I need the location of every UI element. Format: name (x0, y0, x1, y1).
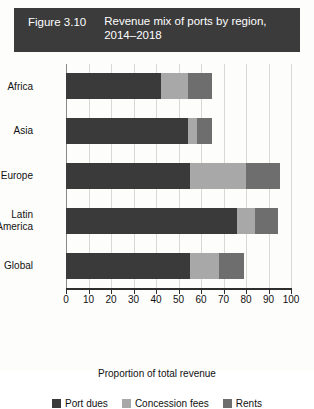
bar-segment-concession-fees (190, 253, 219, 279)
category-label-line: Latin (0, 209, 33, 221)
x-tick-label-90: 90 (263, 294, 274, 305)
stacked-bar (66, 118, 212, 144)
category-label-global: Global (0, 260, 33, 272)
x-tick-label-80: 80 (240, 294, 251, 305)
category-label-line: Europe (0, 170, 33, 182)
bar-row: Africa (66, 64, 291, 109)
legend-item-rents: Rents (223, 398, 262, 409)
bar-segment-port-dues (66, 253, 190, 279)
x-tick-label-60: 60 (195, 294, 206, 305)
bar-row: LatinAmerica (66, 198, 291, 243)
bar-segment-port-dues (66, 73, 161, 99)
category-label-africa: Africa (0, 81, 33, 93)
bar-segment-port-dues (66, 118, 188, 144)
bar-segment-rents (219, 253, 244, 279)
category-label-line: Global (0, 260, 33, 272)
bar-segment-rents (188, 73, 213, 99)
bar-segment-rents (255, 208, 278, 234)
bar-segment-rents (197, 118, 213, 144)
x-tick-label-50: 50 (173, 294, 184, 305)
category-label-line: America (0, 221, 33, 233)
stacked-bar (66, 73, 212, 99)
legend-swatch-icon (52, 399, 61, 408)
stacked-bar (66, 208, 278, 234)
figure-title-banner: Figure 3.10 Revenue mix of ports by regi… (14, 8, 300, 52)
category-label-asia: Asia (0, 125, 33, 137)
stacked-bar (66, 253, 244, 279)
bar-row: Europe (66, 154, 291, 199)
bar-segment-concession-fees (237, 208, 255, 234)
x-axis-title: Proportion of total revenue (0, 368, 314, 379)
x-tick-label-10: 10 (83, 294, 94, 305)
legend-label: Rents (236, 398, 262, 409)
bar-segment-port-dues (66, 208, 237, 234)
chart-legend: Port duesConcession feesRents (0, 398, 314, 409)
legend-item-port-dues: Port dues (52, 398, 108, 409)
figure-title: Revenue mix of ports by region, 2014–201… (104, 14, 292, 42)
legend-item-concession-fees: Concession fees (122, 398, 209, 409)
x-tick-label-100: 100 (283, 294, 300, 305)
chart-plot-area: AfricaAsiaEuropeLatinAmericaGlobal 01020… (0, 58, 314, 298)
bar-segment-rents (246, 163, 280, 189)
gridline-100 (291, 64, 292, 288)
legend-swatch-icon (223, 399, 232, 408)
x-tick-label-40: 40 (150, 294, 161, 305)
bar-row: Global (66, 243, 291, 288)
category-label-line: Asia (0, 125, 33, 137)
category-label-latin-america: LatinAmerica (0, 209, 33, 232)
bars-container: AfricaAsiaEuropeLatinAmericaGlobal (66, 64, 291, 288)
category-label-line: Africa (0, 81, 33, 93)
bar-segment-concession-fees (188, 118, 197, 144)
figure-number: Figure 3.10 (28, 14, 86, 29)
legend-label: Port dues (65, 398, 108, 409)
x-tick-label-0: 0 (63, 294, 69, 305)
bar-segment-concession-fees (161, 73, 188, 99)
legend-label: Concession fees (135, 398, 209, 409)
bar-segment-concession-fees (190, 163, 246, 189)
stacked-bar (66, 163, 280, 189)
bar-row: Asia (66, 109, 291, 154)
x-tick-label-30: 30 (128, 294, 139, 305)
x-tick-label-70: 70 (218, 294, 229, 305)
legend-swatch-icon (122, 399, 131, 408)
x-tick-label-20: 20 (105, 294, 116, 305)
category-label-europe: Europe (0, 170, 33, 182)
bar-segment-port-dues (66, 163, 190, 189)
